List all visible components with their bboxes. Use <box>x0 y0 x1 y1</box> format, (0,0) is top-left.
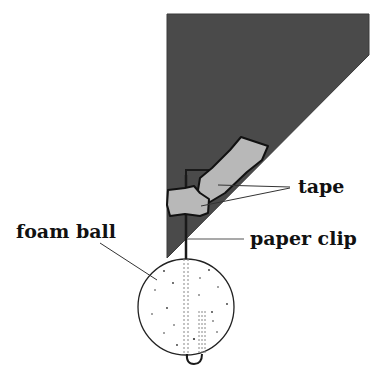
paper-triangle <box>167 14 369 258</box>
label-paper-clip: paper clip <box>250 227 357 249</box>
diagram-canvas: tape paper clip foam ball <box>0 0 377 378</box>
label-tape: tape <box>298 175 344 197</box>
foam-ball-leader <box>100 243 157 280</box>
label-foam-ball: foam ball <box>16 220 116 242</box>
foam-ball <box>138 259 234 355</box>
